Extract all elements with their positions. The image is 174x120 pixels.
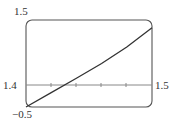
plot-frame xyxy=(26,20,152,107)
y-min-label: −0.5 xyxy=(12,108,32,120)
chart: 1.5 1.4 1.5 −0.5 xyxy=(0,0,174,120)
x-min-label: 1.4 xyxy=(3,79,17,91)
y-max-label: 1.5 xyxy=(14,5,28,17)
plot-curve xyxy=(26,28,152,107)
x-max-label: 1.5 xyxy=(155,79,169,91)
